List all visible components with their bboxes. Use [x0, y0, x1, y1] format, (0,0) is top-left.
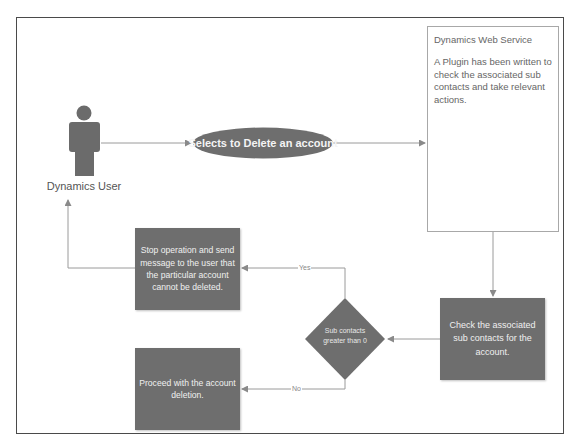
decision-label-line1: Sub contacts [315, 326, 375, 336]
proceed-deletion-box: Proceed with the account deletion. [135, 348, 240, 430]
stop-operation-box: Stop operation and send message to the u… [135, 228, 240, 310]
decision-label: Sub contacts greater than 0 [315, 326, 375, 346]
decision-label-line2: greater than 0 [315, 336, 375, 346]
web-service-title: Dynamics Web Service [434, 34, 552, 47]
proceed-deletion-label: Proceed with the account deletion. [139, 377, 236, 402]
actor-label: Dynamics User [44, 180, 124, 192]
check-sub-contacts-label: Check the associated sub contacts for th… [444, 319, 541, 358]
yes-edge-label: Yes [298, 264, 311, 271]
web-service-description: A Plugin has been written to check the a… [434, 56, 552, 107]
no-edge-label: No [291, 385, 302, 392]
check-sub-contacts-box: Check the associated sub contacts for th… [440, 298, 545, 380]
action-ellipse-label: Selects to Delete an account [193, 128, 333, 158]
person-icon [69, 106, 100, 177]
web-service-box: Dynamics Web Service A Plugin has been w… [427, 26, 559, 232]
stop-operation-label: Stop operation and send message to the u… [139, 244, 236, 294]
